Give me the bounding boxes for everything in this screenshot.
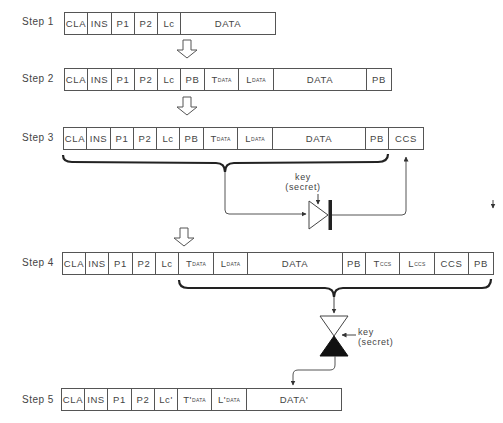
- diagram-graphics: [0, 0, 503, 423]
- brace-icon: [63, 154, 388, 172]
- decrypt-icon: [320, 316, 348, 356]
- step-transition-arrow-icon: [177, 97, 197, 115]
- step-transition-arrow-icon: [174, 228, 194, 246]
- mac-compute-icon: [309, 200, 332, 230]
- brace-icon: [179, 279, 491, 297]
- step-transition-arrow-icon: [177, 40, 197, 58]
